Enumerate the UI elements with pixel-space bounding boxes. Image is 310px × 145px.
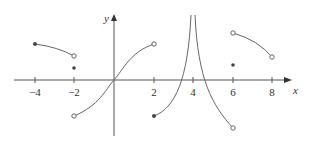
y-axis-label: y — [103, 12, 109, 24]
x-axis-arrow-icon — [284, 77, 292, 83]
closed-point — [33, 42, 37, 46]
curve-piece-4 — [195, 15, 233, 128]
tick-label: 4 — [190, 86, 196, 98]
tick-label: 2 — [151, 86, 157, 98]
y-axis-arrow-icon — [111, 14, 117, 21]
open-point — [72, 114, 76, 118]
tick-label: −2 — [68, 86, 80, 98]
function-graph: x y −4 −2 2 4 6 8 — [0, 0, 310, 145]
closed-point — [152, 114, 156, 118]
curve-piece-3 — [154, 15, 191, 116]
open-point — [231, 31, 235, 35]
open-point — [231, 126, 235, 130]
open-point — [270, 55, 274, 59]
tick-label: 8 — [269, 86, 275, 98]
curve-piece-5 — [233, 33, 272, 57]
isolated-point — [231, 63, 235, 67]
open-point — [152, 42, 156, 46]
isolated-point — [72, 66, 76, 70]
x-axis-label: x — [292, 84, 298, 96]
tick-label: 6 — [230, 86, 236, 98]
curve-piece-1 — [35, 44, 74, 56]
tick-label: −4 — [29, 86, 41, 98]
open-point — [72, 54, 76, 58]
